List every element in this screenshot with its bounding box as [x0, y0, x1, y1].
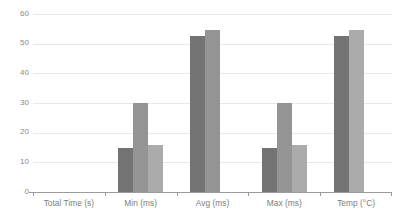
bar-group-bars: [320, 14, 392, 192]
x-axis-label-avg: Avg (ms): [177, 196, 249, 214]
x-axis-label-min: Min (ms): [105, 196, 177, 214]
bar-chart: 60 50 40 30 20 10 0: [0, 0, 400, 217]
bar-series-1: [118, 148, 133, 193]
y-axis-tick-label: 20: [3, 128, 29, 136]
bar-series-3: [148, 145, 163, 192]
x-axis-labels: Total Time (s) Min (ms) Avg (ms) Max (ms…: [33, 196, 392, 214]
bar-series-2: [349, 30, 364, 192]
y-axis-tick-label: 60: [3, 10, 29, 18]
bar-group-bars: [248, 14, 320, 192]
x-axis-label-total-time: Total Time (s): [33, 196, 105, 214]
bar-series-1: [190, 36, 205, 192]
y-axis-tick-label: 30: [3, 99, 29, 107]
bar-series-2: [277, 103, 292, 192]
bar-group-temp: [320, 14, 392, 192]
y-axis-tick-label: 40: [3, 69, 29, 77]
x-axis-label-max: Max (ms): [248, 196, 320, 214]
bar-series-1: [262, 148, 277, 193]
bar-group-bars: [33, 14, 105, 192]
bar-series-1: [334, 36, 349, 192]
bar-series-3: [292, 145, 307, 193]
y-axis-tick-label: 50: [3, 39, 29, 47]
bar-series-2: [205, 30, 220, 192]
y-axis-tick-label: 10: [3, 158, 29, 166]
y-axis-tick-label: 0: [3, 188, 29, 196]
bar-series-2: [133, 103, 148, 192]
axis-baseline: [33, 192, 392, 193]
bar-groups: [33, 14, 392, 192]
bar-group-bars: [105, 14, 177, 192]
bar-group-avg: [177, 14, 249, 192]
bar-group-bars: [177, 14, 249, 192]
bar-group-total-time: [33, 14, 105, 192]
bar-group-max: [248, 14, 320, 192]
x-axis-label-temp: Temp (°C): [320, 196, 392, 214]
plot-area: [33, 14, 392, 192]
bar-group-min: [105, 14, 177, 192]
